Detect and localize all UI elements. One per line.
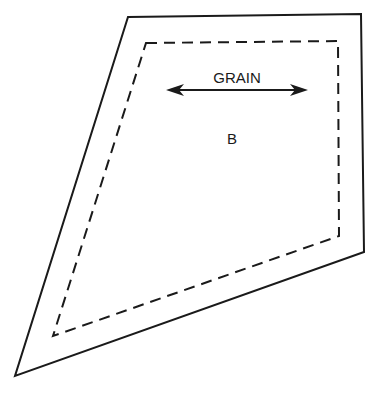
- piece-label: B: [227, 130, 237, 147]
- outer-cut-line: [15, 14, 364, 376]
- seam-line-dashed: [53, 41, 339, 336]
- pattern-piece-diagram: GRAIN B: [0, 0, 385, 402]
- grain-label: GRAIN: [213, 69, 261, 86]
